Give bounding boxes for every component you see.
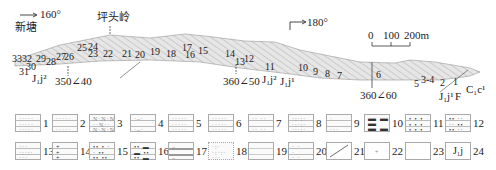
lithology-swatch: ·:· ·:·:· ·:· [208,142,234,160]
legend-item: •• ▬ ▬ •••• ▬16 [130,142,169,160]
layer-number: 8 [325,68,330,79]
place-left: 新塘 [15,22,37,33]
legend-item: ··· ·:·:· ··· 13 [15,142,54,160]
lithology-swatch: ·:·:··:·:··:·:· [288,114,314,132]
lithology-swatch [248,142,274,160]
direction-arrow-right [290,20,306,30]
formation-code-swatch: J₁j [445,142,471,160]
lithology-swatch: · ··· [326,114,352,132]
layer-number: 30 [26,61,36,72]
direction-left: 160° [40,9,61,20]
fault-label: F [455,91,461,102]
legend-item: · ··· 9 [326,114,360,132]
layer-number: 25 [77,42,87,53]
legend-item: 23 [405,142,444,160]
legend-item: ···············6 [208,114,242,132]
legend-item: · · · · ·20 [288,142,327,160]
lithology-swatch: ·–··–· [130,114,156,132]
layer-number: 14 [225,48,235,59]
legend-item: ·· ···· ··7 [248,114,282,132]
formation-label: J₁j¹ [439,91,453,102]
lithology-swatch: •• ▬ ▬ •••• ▬ [130,142,156,160]
layer-number: 2 [440,77,445,88]
lithology-swatch: + ++ [52,142,78,160]
layer-number: 20 [135,49,145,60]
attitude: 350∠40 [55,76,92,87]
layer-number: 28 [46,56,56,67]
scale-label-100: 100 [383,30,400,41]
lithology-swatch: •• • · · •• •• •• [89,142,115,160]
layer-number: 18 [166,48,176,59]
legend-item: ···············5 [168,114,202,132]
layer-number: 26 [64,51,74,62]
attitude: 360∠50 [223,76,260,87]
formation-label: J₁j² [262,74,276,85]
lithology-swatch: N·N·N··N··N·N·N [89,114,115,132]
legend-item: ···············1 [15,114,49,132]
scale-label-200: 200m [404,30,429,41]
legend-item: ··········2 [52,114,86,132]
layer-number: 6 [376,69,381,80]
legend-item: ▬ ▬ ▬ ▬ ▬10 [364,114,403,132]
legend-item: ·:·:··:·:··:·:·8 [288,114,322,132]
legend-item: J₁j24 [445,142,484,160]
lithology-swatch: – – [168,142,194,160]
legend-item: 19 [248,142,287,160]
legend-item: ·–··–·4 [130,114,164,132]
legend-item: – – 17 [168,142,207,160]
layer-number: 12 [244,53,254,64]
layer-number: 19 [150,46,160,57]
formation-label: J₁j² [32,73,46,84]
legend-item: •• ···· •••• ··12 [445,114,484,132]
legend-item: N·N·N··N··N·N·N3 [89,114,123,132]
formation-label: J₁j¹ [280,76,294,87]
layer-number: 3-4 [421,74,434,85]
direction-arrow-left [20,13,37,17]
layer-number: 16 [185,49,195,60]
scale-bar [372,42,410,46]
legend-item: +22 [364,142,403,160]
layer-number: 29 [36,53,46,64]
attitude: 360∠60 [360,90,397,101]
layer-number: 15 [198,45,208,56]
layer-number: 21 [122,48,132,59]
lithology-swatch: ·· ···· ·· [248,114,274,132]
peak-name: 坪头岭 [97,12,130,23]
layer-number: 23 [88,48,98,59]
lithology-swatch: • • •• • •• • • [405,114,431,132]
lithology-swatch [405,142,431,160]
lithology-swatch: ▬ ▬ ▬ ▬ ▬ [364,114,390,132]
layer-number: 11 [265,61,275,72]
lithology-swatch: ··············· [208,114,234,132]
fault-line-swatch [326,142,352,160]
layer-number: 33 [12,53,22,64]
layer-number: 7 [337,70,342,81]
direction-right: 180° [307,17,328,28]
lithology-swatch: ··· ·:·:· ··· [15,142,41,160]
layer-number: 22 [103,48,113,59]
scale-label-0: 0 [368,30,374,41]
lithology-swatch: + [364,142,390,160]
formation-label: C₁c¹ [466,84,485,95]
layer-number: 10 [298,62,308,73]
layer-number: 5 [414,78,419,89]
legend-item: •• • · · •• •• ••15 [89,142,128,160]
legend-item: • • •• • •• • •11 [405,114,444,132]
lithology-swatch: ··············· [168,114,194,132]
layer-number: 9 [313,66,318,77]
layer-number: 1 [453,76,458,87]
lithology-swatch: •• ···· •••• ·· [445,114,471,132]
legend-item: ·:· ·:·:· ·:· 18 [208,142,247,160]
lithology-swatch: · · · · · [288,142,314,160]
legend: ···············1 ··········2 N·N·N··N··N… [0,108,496,170]
legend-item: + ++ 14 [52,142,91,160]
legend-item: 21 [326,142,365,160]
lithology-swatch: ··············· [15,114,41,132]
lithology-swatch: ·········· [52,114,78,132]
